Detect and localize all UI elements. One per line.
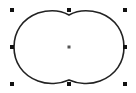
handle-middle-right[interactable] (123, 45, 127, 49)
handle-bottom-right[interactable] (123, 82, 127, 86)
handle-top-right[interactable] (123, 8, 127, 12)
handle-bottom-left[interactable] (10, 82, 14, 86)
handle-top-middle[interactable] (67, 8, 71, 12)
center-point-icon[interactable] (68, 46, 71, 49)
handle-top-left[interactable] (10, 8, 14, 12)
canvas[interactable] (0, 0, 136, 93)
handle-middle-left[interactable] (10, 45, 14, 49)
handle-bottom-middle[interactable] (67, 82, 71, 86)
